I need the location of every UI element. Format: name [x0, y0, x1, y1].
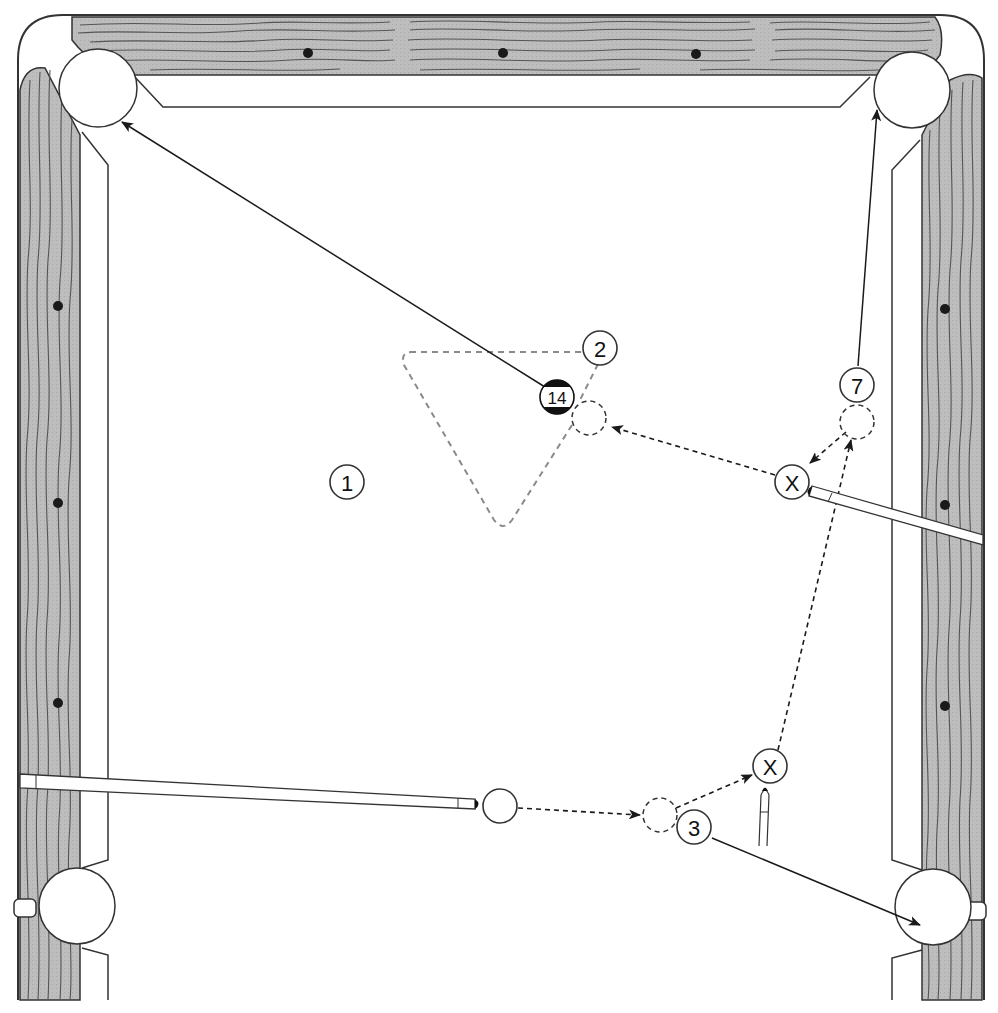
ball-2: 2	[583, 331, 617, 365]
path-3-to-corner	[712, 838, 920, 925]
cue-ball	[483, 789, 517, 823]
shot-lines	[122, 110, 920, 925]
left-rail	[20, 68, 80, 1000]
position-marker-x-1: X	[775, 465, 809, 499]
svg-text:2: 2	[594, 337, 606, 362]
position-marker-x-2: X	[753, 749, 787, 783]
diamond-icon	[940, 304, 950, 314]
diamond-icon	[940, 701, 950, 711]
top-rail	[72, 17, 942, 75]
ball-14-striped: 14	[540, 380, 574, 415]
diamond-icon	[691, 49, 701, 59]
cue-stick-bottom	[20, 774, 479, 809]
path-14-to-corner	[122, 122, 545, 387]
svg-text:X: X	[763, 755, 778, 780]
svg-text:14: 14	[548, 389, 567, 408]
ghost-ball-7	[840, 405, 874, 439]
diamond-icon	[940, 500, 950, 510]
rail-diamonds	[53, 48, 950, 711]
cue-stick-small	[759, 788, 769, 847]
svg-text:1: 1	[341, 471, 353, 496]
ball-3: 3	[677, 810, 711, 844]
pocket-top-right	[874, 52, 950, 128]
diamond-icon	[303, 48, 313, 58]
ball-1: 1	[330, 465, 364, 499]
rack-outline	[403, 352, 598, 526]
diamond-icon	[53, 301, 63, 311]
pool-table-diagram: 1 2 14 7 3 X X	[0, 0, 998, 1013]
cushions	[82, 75, 922, 1000]
diamond-icon	[53, 498, 63, 508]
ghost-ball-3	[643, 798, 677, 832]
pocket-top-left	[59, 49, 137, 127]
table-frame	[18, 15, 984, 1000]
diamond-icon	[53, 698, 63, 708]
diamond-icon	[498, 48, 508, 58]
path-7-to-corner	[858, 110, 877, 366]
ghost-balls	[572, 401, 874, 832]
svg-text:7: 7	[851, 374, 863, 399]
ball-7: 7	[840, 368, 874, 402]
ghost-ball-14	[572, 401, 606, 435]
svg-text:X: X	[785, 471, 800, 496]
svg-text:3: 3	[688, 816, 700, 841]
